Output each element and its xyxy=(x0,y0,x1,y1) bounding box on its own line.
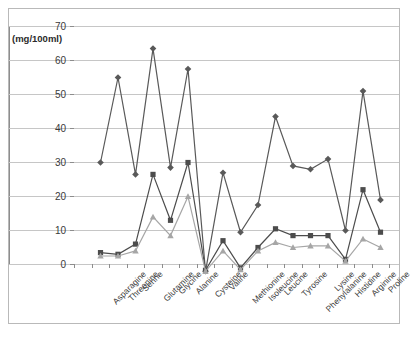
series-2-square-point-9 xyxy=(255,245,260,250)
x-tick-mark-4 xyxy=(144,264,145,268)
gridline-60 xyxy=(9,60,399,61)
chart-frame: (mg/100ml) 010203040506070 AsparagineThr… xyxy=(8,8,400,324)
series-1-diamond-point-1 xyxy=(115,74,122,81)
series-1-diamond-line xyxy=(101,49,381,272)
x-tick-mark-2 xyxy=(109,264,110,268)
y-tick-mark-70 xyxy=(70,26,74,27)
series-3-triangle xyxy=(97,193,383,274)
x-tick-mark-1 xyxy=(92,264,93,268)
series-1-diamond-point-5 xyxy=(185,66,192,73)
y-tick-label-60: 60 xyxy=(9,55,66,66)
x-tick-mark-7 xyxy=(197,264,198,268)
y-tick-mark-40 xyxy=(70,128,74,129)
x-tick-mark-18 xyxy=(389,264,390,268)
series-3-triangle-point-10 xyxy=(272,239,278,245)
series-2-square-point-1 xyxy=(115,252,120,257)
series-3-triangle-point-3 xyxy=(150,214,156,220)
series-3-triangle-point-1 xyxy=(115,253,121,259)
series-2-square-point-4 xyxy=(168,218,173,223)
series-3-triangle-point-14 xyxy=(342,258,348,264)
y-tick-mark-20 xyxy=(70,196,74,197)
series-1-diamond-point-2 xyxy=(132,171,139,178)
y-tick-label-0: 0 xyxy=(9,259,66,270)
series-3-triangle-point-7 xyxy=(220,248,226,254)
x-tick-mark-16 xyxy=(354,264,355,268)
series-3-triangle-point-4 xyxy=(167,232,173,238)
series-1-diamond-point-10 xyxy=(272,113,279,120)
series-1-diamond-point-4 xyxy=(167,164,174,171)
series-1-diamond-point-16 xyxy=(377,197,384,204)
gridline-10 xyxy=(9,230,399,231)
series-2-square-point-7 xyxy=(220,238,225,243)
y-tick-mark-10 xyxy=(70,230,74,231)
y-tick-mark-50 xyxy=(70,94,74,95)
series-3-triangle-point-12 xyxy=(307,243,313,249)
series-2-square-point-3 xyxy=(150,172,155,177)
series-3-triangle-point-15 xyxy=(360,236,366,242)
series-3-triangle-line xyxy=(101,197,381,272)
series-2-square-point-2 xyxy=(133,242,138,247)
y-axis-unit-label: (mg/100ml) xyxy=(12,33,62,44)
gridline-40 xyxy=(9,128,399,129)
series-2-square-point-11 xyxy=(290,233,295,238)
y-tick-mark-30 xyxy=(70,162,74,163)
data-series-layer xyxy=(9,9,414,358)
chart-page: (mg/100ml) 010203040506070 AsparagineThr… xyxy=(0,0,414,358)
x-tick-mark-8 xyxy=(214,264,215,268)
y-tick-label-30: 30 xyxy=(9,157,66,168)
x-tick-label-valine: Valine xyxy=(227,269,250,292)
series-1-diamond-point-9 xyxy=(255,202,262,209)
gridline-50 xyxy=(9,94,399,95)
y-tick-label-70: 70 xyxy=(9,21,66,32)
x-tick-mark-9 xyxy=(232,264,233,268)
series-2-square-line xyxy=(101,163,381,271)
series-1-diamond-point-12 xyxy=(307,166,314,173)
series-2-square-point-14 xyxy=(343,257,348,262)
x-tick-mark-13 xyxy=(302,264,303,268)
y-tick-label-20: 20 xyxy=(9,191,66,202)
series-2-square-point-6 xyxy=(203,268,208,273)
series-1-diamond-point-7 xyxy=(220,169,227,176)
series-1-diamond-point-11 xyxy=(290,163,297,170)
gridline-30 xyxy=(9,162,399,163)
y-tick-label-10: 10 xyxy=(9,225,66,236)
series-3-triangle-point-13 xyxy=(325,243,331,249)
series-2-square-point-15 xyxy=(360,187,365,192)
y-tick-label-50: 50 xyxy=(9,89,66,100)
x-tick-mark-15 xyxy=(337,264,338,268)
x-tick-mark-0 xyxy=(74,264,75,268)
series-3-triangle-point-0 xyxy=(97,253,103,259)
x-tick-mark-11 xyxy=(267,264,268,268)
y-tick-label-40: 40 xyxy=(9,123,66,134)
x-tick-mark-3 xyxy=(127,264,128,268)
x-tick-mark-12 xyxy=(284,264,285,268)
series-2-square-point-12 xyxy=(308,233,313,238)
series-3-triangle-point-16 xyxy=(377,244,383,250)
x-tick-mark-5 xyxy=(162,264,163,268)
series-1-diamond-point-3 xyxy=(150,45,157,52)
gridline-0 xyxy=(9,264,399,265)
y-tick-mark-60 xyxy=(70,60,74,61)
series-1-diamond xyxy=(97,45,384,274)
gridline-70 xyxy=(9,26,399,27)
series-2-square-point-13 xyxy=(325,233,330,238)
x-tick-mark-17 xyxy=(372,264,373,268)
x-tick-mark-10 xyxy=(249,264,250,268)
series-3-triangle-point-11 xyxy=(290,244,296,250)
series-2-square xyxy=(98,160,383,273)
series-2-square-point-0 xyxy=(98,250,103,255)
x-tick-mark-6 xyxy=(179,264,180,268)
series-3-triangle-point-2 xyxy=(132,248,138,254)
gridline-20 xyxy=(9,196,399,197)
x-tick-mark-14 xyxy=(319,264,320,268)
series-3-triangle-point-9 xyxy=(255,248,261,254)
